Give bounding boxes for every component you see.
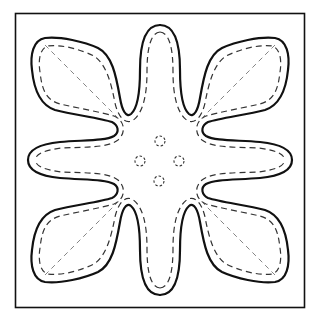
center-dot-right xyxy=(174,156,184,166)
block-frame xyxy=(16,14,305,308)
stitch-line xyxy=(35,32,285,288)
center-dot-top xyxy=(155,136,165,146)
center-dots xyxy=(135,136,184,186)
center-dot-left xyxy=(135,156,145,166)
flower-outline xyxy=(28,25,292,295)
pattern-canvas: Eight-petal appliqué quilt block pattern xyxy=(0,0,321,320)
center-dot-bottom xyxy=(154,176,164,186)
quilt-pattern-drawing xyxy=(0,0,321,320)
fold-lines xyxy=(45,45,275,275)
